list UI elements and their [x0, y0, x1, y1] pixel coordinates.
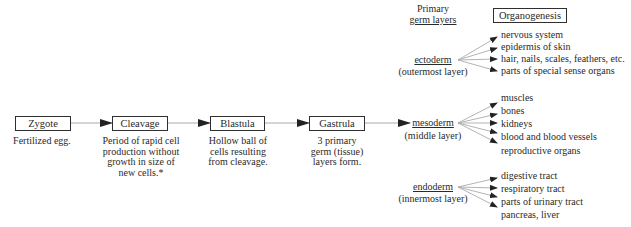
stage-box-zygote: Zygote	[15, 116, 71, 131]
stage-description-blastula: Hollow ball of cells resulting from clea…	[198, 136, 278, 168]
stage-box-blastula: Blastula	[210, 116, 265, 131]
germ-layer-ectoderm: ectoderm	[405, 55, 461, 66]
stage-description-cleavage: Period of rapid cell production without …	[98, 136, 184, 178]
organ-item: epidermis of skin	[501, 41, 570, 52]
organ-item: nervous system	[501, 29, 563, 40]
stage-box-cleavage: Cleavage	[112, 116, 168, 131]
primary-germ-layers-heading-line2: germ layers	[405, 15, 461, 26]
organ-item: digestive tract	[501, 170, 557, 181]
stage-description-gastrula: 3 primary germ (tissue) layers form.	[300, 136, 374, 168]
organ-item: parts of special sense organs	[501, 65, 615, 76]
organ-item: muscles	[501, 92, 533, 103]
primary-germ-layers-heading-line1: Primary	[405, 4, 461, 15]
germ-layer-endoderm: endoderm	[405, 182, 461, 193]
germ-layer-ectoderm-position: (outermost layer)	[395, 67, 471, 78]
organogenesis-heading-box: Organogenesis	[493, 8, 567, 23]
germ-layer-endoderm-position: (innermost layer)	[394, 194, 472, 205]
organ-item: hair, nails, scales, feathers, etc.	[501, 53, 625, 64]
organ-item: kidneys	[501, 118, 532, 129]
germ-layer-mesoderm-position: (middle layer)	[398, 131, 468, 142]
organ-item: respiratory tract	[501, 183, 565, 194]
organ-item: pancreas, liver	[501, 209, 559, 220]
organ-item: blood and blood vessels	[501, 131, 597, 142]
organ-item: parts of urinary tract	[501, 196, 583, 207]
stage-description-zygote: Fertilized egg.	[6, 136, 78, 147]
stage-box-gastrula: Gastrula	[309, 116, 365, 131]
organ-item: bones	[501, 105, 524, 116]
germ-layer-mesoderm: mesoderm	[405, 118, 461, 129]
organ-item: reproductive organs	[501, 145, 581, 156]
